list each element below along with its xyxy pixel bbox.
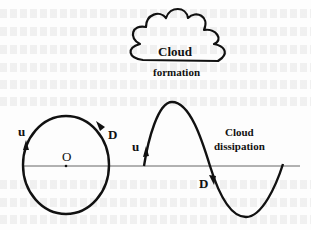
circle-down-label: D bbox=[108, 128, 117, 141]
circle-center-label: O bbox=[62, 150, 71, 163]
cloud-formation-label-line2: formation bbox=[153, 67, 200, 78]
wave-up-label: u bbox=[132, 140, 139, 153]
cloud-dissipation-label-line2: dissipation bbox=[214, 141, 265, 152]
sinusoidal-path bbox=[144, 102, 283, 217]
diagram-graphics bbox=[0, 0, 311, 230]
circle-up-label: u bbox=[18, 125, 25, 138]
wave-down-label: D bbox=[199, 177, 208, 190]
cloud-formation-label-line1: Cloud bbox=[158, 45, 192, 58]
arrow-down-icon bbox=[96, 121, 105, 131]
diagram-canvas: Cloud formation u D O u D Cloud dissipat… bbox=[0, 0, 311, 230]
cloud-dissipation-label-line1: Cloud bbox=[225, 127, 254, 138]
center-point bbox=[65, 165, 68, 168]
